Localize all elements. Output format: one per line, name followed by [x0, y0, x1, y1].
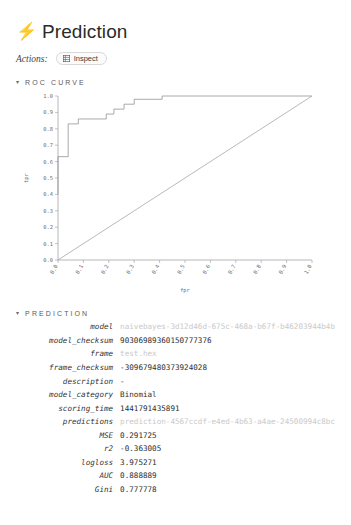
detail-key: logloss [16, 456, 120, 470]
table-row: frame_checksum-309679480373924028 [16, 361, 335, 375]
table-row: scoring_time1441791435891 [16, 402, 335, 416]
svg-text:1.0: 1.0 [43, 93, 53, 99]
detail-value[interactable]: test.hex [120, 347, 335, 361]
detail-value: Binomial [120, 388, 335, 402]
svg-text:0.7: 0.7 [43, 143, 53, 149]
detail-value[interactable]: naivebayes-3d12d46d-675c-468a-b67f-b4620… [120, 320, 335, 334]
detail-key: frame [16, 347, 120, 361]
roc-curve-chart: 0.00.10.20.30.40.50.60.70.80.91.00.00.10… [16, 88, 335, 296]
svg-text:0.8: 0.8 [252, 264, 262, 275]
svg-text:0.4: 0.4 [150, 264, 160, 275]
section-header-prediction[interactable]: ▾ PREDICTION [16, 310, 335, 317]
svg-text:0.5: 0.5 [176, 264, 186, 275]
chevron-down-icon: ▾ [16, 78, 21, 85]
detail-value: 3.975271 [120, 456, 335, 470]
detail-key: predictions [16, 415, 120, 429]
svg-text:1.0: 1.0 [303, 264, 313, 275]
detail-key: MSE [16, 429, 120, 443]
table-row: model_categoryBinomial [16, 388, 335, 402]
table-row: r2-0.363005 [16, 442, 335, 456]
detail-value: 1441791435891 [120, 402, 335, 416]
page-title: Prediction [42, 22, 128, 43]
svg-text:0.2: 0.2 [100, 264, 110, 275]
prediction-details-table: modelnaivebayes-3d12d46d-675c-468a-b67f-… [16, 320, 335, 496]
svg-text:0.3: 0.3 [125, 264, 135, 275]
svg-text:0.1: 0.1 [43, 241, 53, 247]
detail-key: model [16, 320, 120, 334]
table-row: frametest.hex [16, 347, 335, 361]
detail-key: model_category [16, 388, 120, 402]
section-header-roc-curve-label: ROC CURVE [25, 79, 86, 86]
svg-text:0.3: 0.3 [43, 208, 53, 214]
table-row: model_checksum90306989360150777376 [16, 334, 335, 348]
svg-text:tpr: tpr [23, 173, 30, 183]
bolt-icon: ⚡ [16, 23, 37, 40]
detail-key: r2 [16, 442, 120, 456]
grid-icon [63, 55, 70, 62]
svg-text:0.5: 0.5 [43, 175, 53, 181]
svg-text:0.1: 0.1 [74, 264, 84, 275]
table-row: modelnaivebayes-3d12d46d-675c-468a-b67f-… [16, 320, 335, 334]
detail-key: description [16, 375, 120, 389]
svg-text:0.8: 0.8 [43, 126, 53, 132]
inspect-button-label: Inspect [74, 55, 98, 63]
detail-key: frame_checksum [16, 361, 120, 375]
svg-text:0.0: 0.0 [49, 264, 59, 275]
page-header: ⚡ Prediction [16, 22, 335, 43]
svg-text:0.7: 0.7 [227, 264, 237, 275]
table-row: logloss3.975271 [16, 456, 335, 470]
detail-value: 90306989360150777376 [120, 334, 335, 348]
table-row: description- [16, 375, 335, 389]
actions-row: Actions: Inspect [16, 52, 335, 66]
detail-value: 0.777778 [120, 483, 335, 497]
detail-key: model_checksum [16, 334, 120, 348]
detail-value: 0.291725 [120, 429, 335, 443]
svg-text:0.9: 0.9 [43, 110, 53, 116]
chevron-down-icon: ▾ [16, 309, 21, 316]
table-row: MSE0.291725 [16, 429, 335, 443]
inspect-button[interactable]: Inspect [56, 52, 107, 66]
table-row: predictionsprediction-4567ccdf-e4ed-4b63… [16, 415, 335, 429]
svg-text:0.6: 0.6 [201, 264, 211, 275]
svg-text:fpr: fpr [180, 287, 190, 294]
actions-label: Actions: [16, 54, 48, 64]
detail-value: 0.888889 [120, 469, 335, 483]
table-row: Gini0.777778 [16, 483, 335, 497]
section-header-prediction-label: PREDICTION [25, 310, 89, 317]
detail-key: AUC [16, 469, 120, 483]
detail-value: - [120, 375, 335, 389]
prediction-page: ⚡ Prediction Actions: Inspect ▾ ROC CURV… [0, 0, 351, 496]
detail-key: scoring_time [16, 402, 120, 416]
svg-text:0.6: 0.6 [43, 159, 53, 165]
roc-curve-svg: 0.00.10.20.30.40.50.60.70.80.91.00.00.10… [16, 88, 335, 296]
section-header-roc-curve[interactable]: ▾ ROC CURVE [16, 79, 335, 86]
svg-text:0.4: 0.4 [43, 192, 53, 198]
table-row: AUC0.888889 [16, 469, 335, 483]
svg-text:0.2: 0.2 [43, 225, 53, 231]
svg-text:0.9: 0.9 [277, 264, 287, 275]
svg-text:0.0: 0.0 [43, 257, 53, 263]
detail-key: Gini [16, 483, 120, 497]
detail-value[interactable]: prediction-4567ccdf-e4ed-4b63-a4ae-24500… [120, 415, 335, 429]
detail-value: -309679480373924028 [120, 361, 335, 375]
detail-value: -0.363005 [120, 442, 335, 456]
